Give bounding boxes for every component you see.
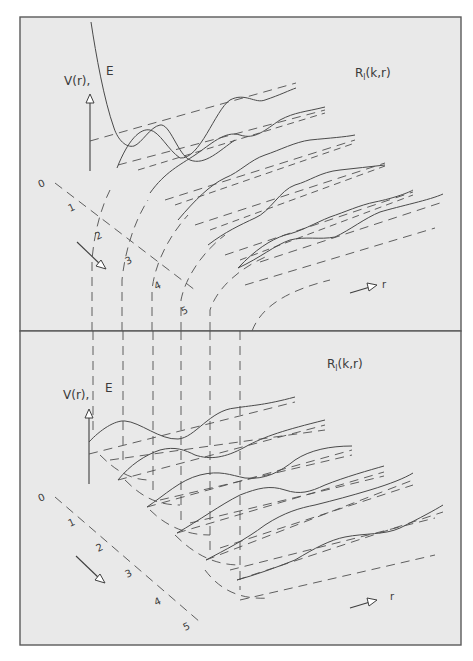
bottom-panel-title: Rl(k,r) [327, 357, 363, 373]
bottom-energy-label: E [105, 381, 113, 395]
top-energy-label: E [106, 64, 114, 78]
top-panel-title: Rl(k,r) [355, 66, 391, 82]
top-axis-label: V(r), [64, 74, 90, 88]
radial-wavefunction-diagram: Rl(k,r) V(r), E [0, 0, 473, 661]
bottom-panel: Rl(k,r) V(r), E [20, 331, 461, 645]
bottom-axis-label: V(r), [63, 388, 89, 402]
top-panel-frame [20, 17, 461, 331]
bottom-panel-frame [20, 331, 461, 645]
top-panel: Rl(k,r) V(r), E [20, 17, 461, 331]
